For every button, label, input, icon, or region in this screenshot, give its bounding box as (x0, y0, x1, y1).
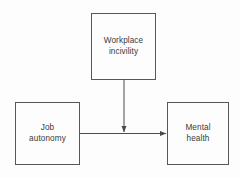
node-workplace-incivility-label: Workplace incivility (102, 36, 145, 57)
node-workplace-incivility: Workplace incivility (91, 13, 156, 80)
node-mental-health-label: Mental health (183, 123, 212, 144)
diagram-canvas: Workplace incivility Job autonomy Mental… (0, 0, 240, 178)
node-job-autonomy-label: Job autonomy (27, 123, 68, 144)
node-job-autonomy: Job autonomy (15, 102, 80, 165)
node-mental-health: Mental health (167, 102, 229, 165)
